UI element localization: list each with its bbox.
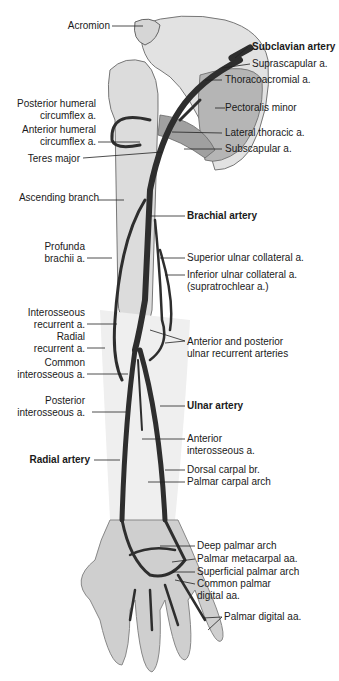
label-text: interosseous a. [17,369,85,380]
label-ulnar-artery: Ulnar artery [187,400,243,412]
label-lateral-thoracic: Lateral thoracic a. [225,127,305,139]
label-text: interosseous a. [17,407,85,418]
label-palmar-metacarpal: Palmar metacarpal aa. [197,553,298,565]
label-profunda-brachii: Profundabrachii a. [44,241,85,264]
label-acromion: Acromion [68,20,110,32]
label-pectoralis-minor: Pectoralis minor [225,102,297,114]
label-radial-artery: Radial artery [29,454,90,466]
label-text: (supratrochlear a.) [187,281,269,292]
label-text: Superficial palmar arch [197,566,299,577]
label-anterior-humeral-circumflex: Anterior humeralcircumflex a. [22,124,96,147]
label-posterior-humeral-circumflex: Posterior humeralcircumflex a. [17,98,96,121]
label-text: Pectoralis minor [225,102,297,113]
label-radial-recurrent: Radialrecurrent a. [34,331,85,354]
label-text: Superior ulnar collateral a. [187,252,304,263]
label-teres-major: Teres major [28,153,80,165]
label-text: Common [44,357,85,368]
label-suprascapular: Suprascapular a. [252,58,328,70]
label-text: circumflex a. [40,136,96,147]
label-text: Radial [57,331,85,342]
label-superficial-palmar-arch: Superficial palmar arch [197,566,299,578]
label-dorsal-carpal: Dorsal carpal br. [187,464,260,476]
label-subclavian-artery: Subclavian artery [252,41,335,53]
label-text: digital aa. [197,590,240,601]
label-posterior-interosseous: Posteriorinterosseous a. [17,395,85,418]
label-brachial-artery: Brachial artery [187,210,257,222]
label-text: Palmar metacarpal aa. [197,553,298,564]
label-text: Subclavian artery [252,41,335,52]
label-text: Inferior ulnar collateral a. [187,269,297,280]
label-ascending-branch: Ascending branch [19,192,99,204]
label-text: Dorsal carpal br. [187,464,260,475]
label-subscapular: Subscapular a. [225,143,292,155]
label-text: Anterior and posterior [187,336,283,347]
label-deep-palmar-arch: Deep palmar arch [197,540,276,552]
label-text: Posterior humeral [17,98,96,109]
label-text: Brachial artery [187,210,257,221]
label-text: Acromion [68,20,110,31]
label-text: Ulnar artery [187,400,243,411]
label-interosseous-recurrent: Interosseousrecurrent a. [28,307,85,330]
upper-limb-arteries-diagram: Acromion Posterior humeralcircumflex a. … [0,0,339,681]
label-text: circumflex a. [40,110,96,121]
label-thoracoacromial: Thoracoacromial a. [225,74,311,86]
label-text: Palmar digital aa. [224,611,301,622]
label-text: Posterior [45,395,85,406]
label-text: recurrent a. [34,319,85,330]
label-text: Lateral thoracic a. [225,127,305,138]
label-common-interosseous: Commoninterosseous a. [17,357,85,380]
label-text: ulnar recurrent arteries [187,348,288,359]
label-palmar-digital: Palmar digital aa. [224,611,301,623]
label-text: Teres major [28,153,80,164]
label-text: Anterior [187,433,222,444]
label-text: brachii a. [44,253,85,264]
label-ulnar-recurrent: Anterior and posteriorulnar recurrent ar… [187,336,288,359]
label-anterior-interosseous: Anteriorinterosseous a. [187,433,255,456]
label-text: Subscapular a. [225,143,292,154]
label-superior-ulnar-collateral: Superior ulnar collateral a. [187,252,304,264]
label-text: Thoracoacromial a. [225,74,311,85]
label-common-palmar-digital: Common palmardigital aa. [197,578,271,601]
label-text: Ascending branch [19,192,99,203]
label-text: recurrent a. [34,343,85,354]
label-palmar-carpal-arch: Palmar carpal arch [187,476,271,488]
label-text: Radial artery [29,454,90,465]
label-inferior-ulnar-collateral: Inferior ulnar collateral a.(supratrochl… [187,269,297,292]
label-text: Suprascapular a. [252,58,328,69]
label-text: Profunda [44,241,85,252]
label-text: Deep palmar arch [197,540,276,551]
label-text: Anterior humeral [22,124,96,135]
label-text: interosseous a. [187,445,255,456]
label-text: Palmar carpal arch [187,476,271,487]
label-text: Interosseous [28,307,85,318]
label-text: Common palmar [197,578,271,589]
